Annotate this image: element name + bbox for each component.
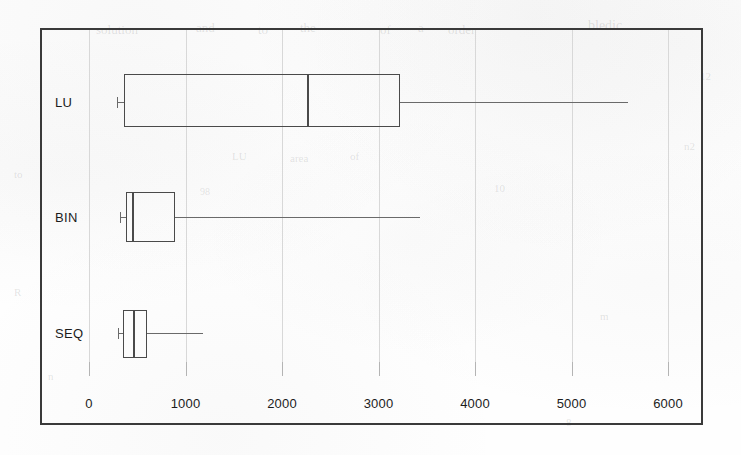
x-tick-label: 0 — [85, 396, 92, 411]
x-tick-label: 3000 — [364, 396, 394, 411]
upper-whisker — [147, 333, 203, 334]
x-tick-label: 6000 — [653, 396, 683, 411]
boxplot-seq — [0, 0, 741, 455]
category-label-seq: SEQ — [55, 326, 83, 341]
category-label-lu: LU — [55, 95, 72, 110]
x-tick-label: 1000 — [171, 396, 201, 411]
category-label-bin: BIN — [55, 210, 78, 225]
box-iqr — [123, 310, 147, 358]
median-line — [133, 310, 135, 358]
boxplot-figure: solutionandtotheofaorderbledic12n2LUarea… — [0, 0, 741, 455]
x-tick-label: 2000 — [267, 396, 297, 411]
x-tick-label: 5000 — [557, 396, 587, 411]
lower-whisker-cap — [118, 328, 119, 339]
x-tick-label: 4000 — [460, 396, 490, 411]
